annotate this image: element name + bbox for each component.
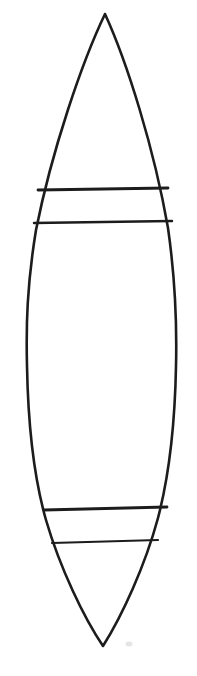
pencil-smudge-mark (126, 642, 133, 647)
surfboard-drawing (0, 0, 197, 676)
drawing-canvas (0, 0, 197, 676)
stripe-line-top-upper (38, 188, 168, 190)
